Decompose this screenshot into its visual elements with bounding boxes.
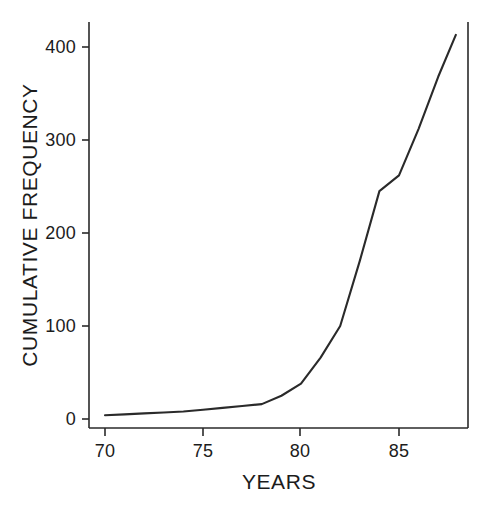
x-tick-label-70: 70	[95, 441, 115, 462]
x-tick-marks	[105, 428, 399, 436]
y-tick-label-200: 200	[45, 223, 76, 244]
x-tick-label-85: 85	[389, 441, 409, 462]
y-tick-marks	[82, 47, 89, 419]
y-tick-label-400: 400	[45, 37, 76, 58]
x-tick-label-80: 80	[290, 441, 310, 462]
cumulative-frequency-line	[105, 35, 456, 415]
line-chart-plot	[0, 0, 498, 513]
y-axis-title: CUMULATIVE FREQUENCY	[18, 83, 42, 366]
chart-figure: 0 100 200 300 400 70 75 80 85 YEARS CUMU…	[0, 0, 498, 513]
y-tick-label-100: 100	[45, 316, 76, 337]
x-axis-title: YEARS	[242, 470, 316, 494]
x-tick-label-75: 75	[193, 441, 213, 462]
y-tick-label-0: 0	[66, 409, 76, 430]
y-tick-label-300: 300	[45, 130, 76, 151]
axis-spines	[89, 22, 468, 428]
